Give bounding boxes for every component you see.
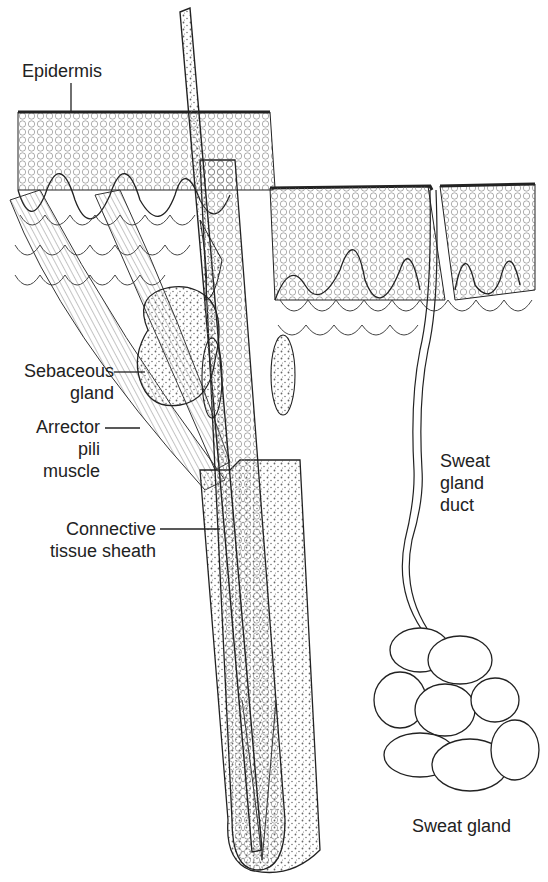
label-sweat-gland-duct: Sweat gland duct xyxy=(440,450,490,516)
sweat-gland xyxy=(374,628,539,791)
label-epidermis: Epidermis xyxy=(22,60,102,82)
label-sweat-gland: Sweat gland xyxy=(412,815,511,837)
epidermis-layer xyxy=(18,112,535,300)
skin-diagram: Epidermis Sebaceous gland Arrector pili … xyxy=(0,0,548,882)
label-sebaceous-gland: Sebaceous gland xyxy=(8,360,114,404)
label-connective-tissue-sheath: Connective tissue sheath xyxy=(30,518,156,562)
label-arrector-pili-muscle: Arrector pili muscle xyxy=(8,416,100,482)
